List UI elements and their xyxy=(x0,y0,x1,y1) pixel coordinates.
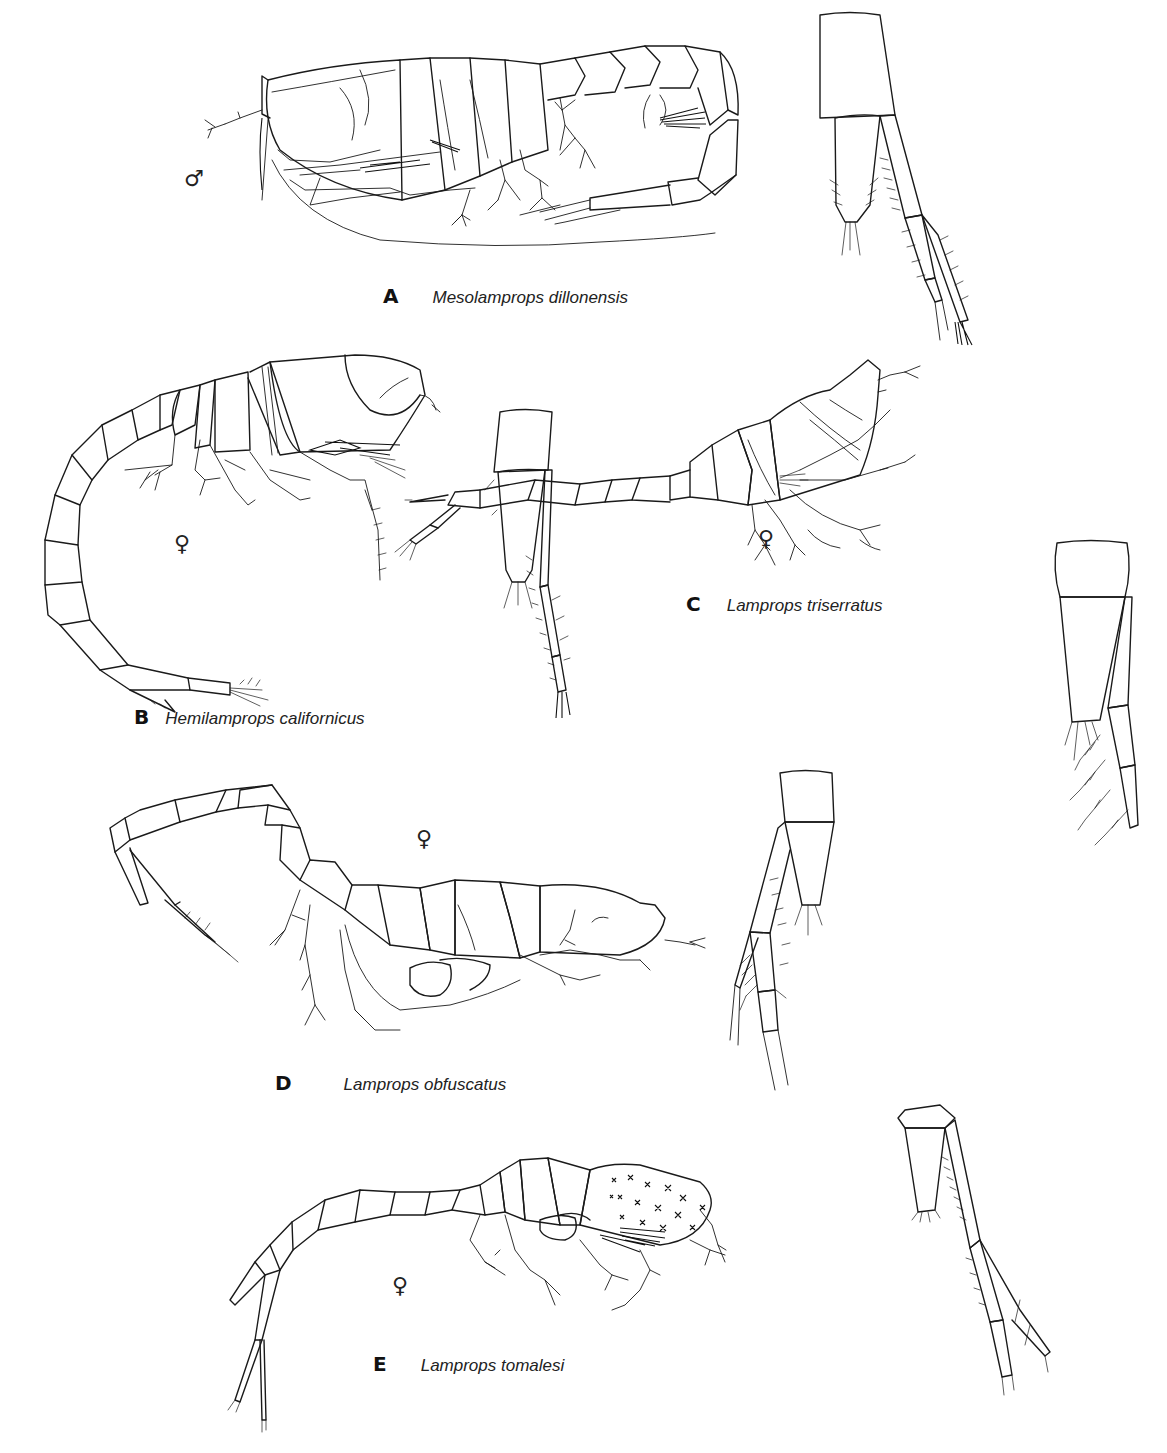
figure-label-e: E Lamprops tomalesi xyxy=(373,1352,564,1376)
male-symbol-icon: ♂ xyxy=(184,168,204,190)
species-name: Hemilamprops californicus xyxy=(165,709,364,729)
figure-e-habitus xyxy=(228,1158,726,1432)
figure-a-habitus xyxy=(205,46,738,246)
figure-a-uropod xyxy=(820,13,972,346)
figure-letter: C xyxy=(686,592,701,616)
female-symbol-icon: ♀ xyxy=(758,528,774,550)
figure-d-uropod xyxy=(730,771,834,1091)
female-symbol-icon: ♀ xyxy=(174,533,190,555)
female-symbol-icon: ♀ xyxy=(392,1275,408,1297)
figure-d-habitus xyxy=(110,785,705,1030)
figure-label-d: D Lamprops obfuscatus xyxy=(275,1071,506,1095)
species-name: Lamprops obfuscatus xyxy=(344,1075,507,1095)
figure-c-habitus xyxy=(395,360,920,565)
figure-letter: D xyxy=(275,1071,292,1095)
figure-letter: A xyxy=(383,284,398,308)
species-name: Lamprops triserratus xyxy=(727,596,883,616)
figure-label-c: C Lamprops triserratus xyxy=(686,592,883,616)
figure-letter: E xyxy=(373,1352,387,1376)
species-name: Mesolamprops dillonensis xyxy=(432,288,628,308)
female-symbol-icon: ♀ xyxy=(416,828,432,850)
figure-label-b: B Hemilamprops californicus xyxy=(134,705,365,729)
figure-e-uropod xyxy=(898,1105,1050,1395)
species-name: Lamprops tomalesi xyxy=(421,1356,565,1376)
figure-c-uropod xyxy=(1055,541,1138,846)
figure-label-a: A Mesolamprops dillonensis xyxy=(383,284,628,308)
figure-letter: B xyxy=(134,705,149,729)
figure-b-uropod xyxy=(485,410,570,719)
figure-b-habitus xyxy=(45,355,440,712)
